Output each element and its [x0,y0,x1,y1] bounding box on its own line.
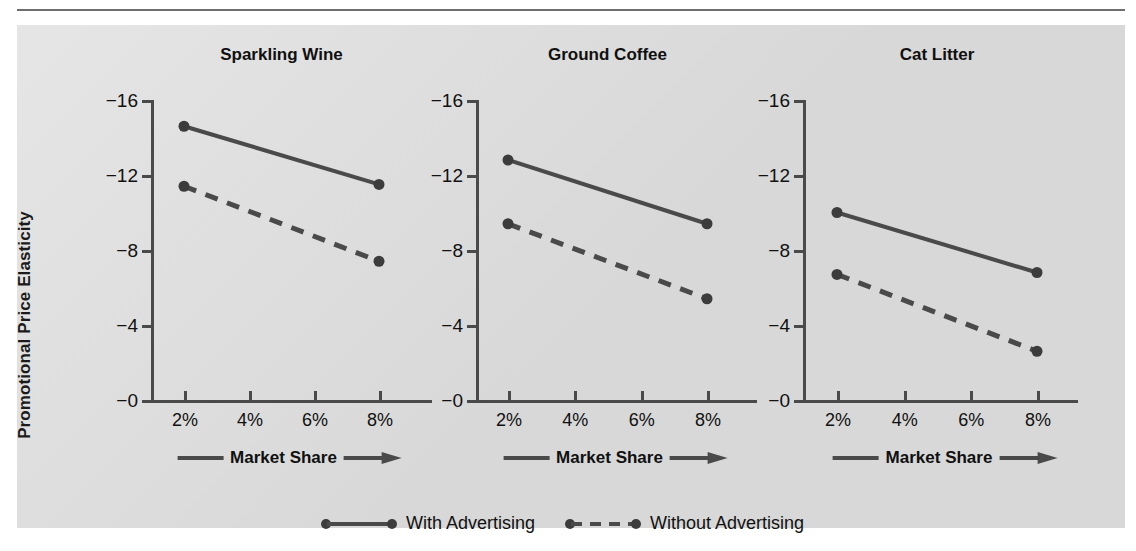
x-tick-2-1 [574,391,577,400]
legend-label-1: With Advertising [406,513,535,534]
chart-title-3: Cat Litter [900,45,975,65]
x-tick-2-2 [641,391,644,400]
data-point-3-1-2 [1032,267,1043,278]
y-axis-line-1 [151,100,154,403]
y-tick-3-4 [794,100,803,103]
caption-rule-icon [177,456,223,460]
data-point-2-2-2 [702,293,713,304]
y-tick-1-1 [142,325,151,328]
data-point-2-2-1 [503,218,514,229]
caption-rule-icon [503,456,549,460]
y-axis-line-3 [803,100,806,403]
y-tick-label-2-2: −8 [401,240,463,262]
x-tick-1-1 [249,391,252,400]
data-point-2-1-1 [503,155,514,166]
series-line-1-2 [184,186,379,261]
x-tick-1-2 [314,391,317,400]
solid-line-icon [321,518,397,530]
x-tick-1-0 [184,391,187,400]
caption-rule-icon [833,456,879,460]
x-axis-line-2 [476,400,757,403]
y-tick-3-2 [794,250,803,253]
y-tick-3-3 [794,175,803,178]
x-tick-label-1-1: 4% [237,410,263,431]
y-tick-label-1-1: −4 [76,315,138,337]
x-axis-caption-label: Market Share [556,448,663,468]
data-point-1-1-2 [374,179,385,190]
x-tick-label-2-0: 2% [496,410,522,431]
y-tick-label-3-1: −4 [728,315,790,337]
x-tick-label-3-2: 6% [958,410,984,431]
x-axis-line-1 [151,400,432,403]
series-line-2-1 [508,160,707,224]
x-tick-label-2-1: 4% [562,410,588,431]
x-axis-caption-3: Market Share [833,448,1058,468]
y-tick-2-4 [467,100,476,103]
y-tick-1-3 [142,175,151,178]
chart-title-1: Sparkling Wine [220,45,343,65]
right-arrow-icon [670,452,728,464]
y-tick-2-1 [467,325,476,328]
x-tick-3-3 [1037,391,1040,400]
data-point-3-1-1 [832,207,843,218]
y-tick-2-3 [467,175,476,178]
x-tick-2-3 [707,391,710,400]
data-point-1-2-1 [179,181,190,192]
x-tick-1-3 [379,391,382,400]
y-tick-label-3-2: −8 [728,240,790,262]
dashed-line-icon [565,518,641,530]
x-tick-label-3-1: 4% [892,410,918,431]
x-tick-label-1-3: 8% [367,410,393,431]
legend-label-2: Without Advertising [650,513,804,534]
series-line-2-2 [508,224,707,299]
x-tick-3-1 [904,391,907,400]
x-tick-3-0 [837,391,840,400]
series-line-3-1 [837,213,1037,273]
y-tick-label-1-0: −0 [76,390,138,412]
x-tick-label-3-0: 2% [825,410,851,431]
x-axis-caption-label: Market Share [886,448,993,468]
data-point-1-1-1 [179,121,190,132]
y-axis-title: Promotional Price Elasticity [15,175,35,475]
y-tick-1-4 [142,100,151,103]
y-tick-label-2-0: −0 [401,390,463,412]
legend-item-1[interactable]: With Advertising [321,513,535,534]
x-axis-caption-1: Market Share [177,448,402,468]
y-tick-2-0 [467,400,476,403]
series-line-1-1 [184,126,379,184]
x-tick-label-1-2: 6% [302,410,328,431]
x-tick-label-2-2: 6% [629,410,655,431]
legend-item-2[interactable]: Without Advertising [565,513,804,534]
data-point-3-2-2 [1032,346,1043,357]
y-tick-label-2-1: −4 [401,315,463,337]
y-tick-3-1 [794,325,803,328]
right-arrow-icon [999,452,1057,464]
y-tick-2-2 [467,250,476,253]
y-tick-label-2-3: −12 [401,165,463,187]
series-line-3-2 [837,274,1037,351]
x-tick-label-1-0: 2% [172,410,198,431]
figure-root: Promotional Price Elasticity Sparkling W… [0,0,1136,551]
data-point-3-2-1 [832,269,843,280]
y-tick-label-2-4: −16 [401,90,463,112]
y-tick-label-1-2: −8 [76,240,138,262]
y-tick-3-0 [794,400,803,403]
data-point-1-2-2 [374,256,385,267]
x-tick-label-3-3: 8% [1025,410,1051,431]
x-axis-caption-label: Market Share [230,448,337,468]
y-tick-label-3-4: −16 [728,90,790,112]
y-tick-label-3-0: −0 [728,390,790,412]
y-axis-line-2 [476,100,479,403]
right-arrow-icon [344,452,402,464]
x-axis-caption-2: Market Share [503,448,728,468]
x-tick-3-2 [970,391,973,400]
y-tick-1-0 [142,400,151,403]
chart-legend: With AdvertisingWithout Advertising [321,513,804,534]
y-tick-label-1-3: −12 [76,165,138,187]
chart-title-2: Ground Coffee [548,45,667,65]
y-tick-1-2 [142,250,151,253]
x-tick-label-2-3: 8% [695,410,721,431]
x-tick-2-0 [508,391,511,400]
y-tick-label-3-3: −12 [728,165,790,187]
top-divider-rule [17,9,1125,11]
